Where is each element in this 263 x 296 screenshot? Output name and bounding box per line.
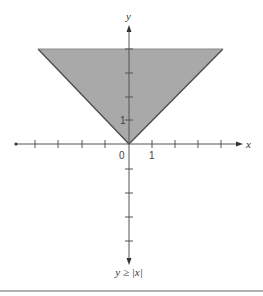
y-axis-label: y	[125, 10, 131, 22]
x-one-label: 1	[149, 150, 155, 161]
x-axis-label: x	[245, 138, 251, 150]
y-axis-up-arrow-icon	[127, 25, 132, 32]
y-one-label: 1	[120, 115, 126, 126]
y-axis-down-arrow-icon	[127, 258, 132, 265]
x-axis-left-dot	[14, 142, 17, 145]
origin-label: 0	[119, 150, 125, 161]
graph: y x 0 1 1 y ≥ |x|	[0, 0, 263, 296]
x-axis-arrow-icon	[236, 142, 243, 147]
caption: y ≥ |x|	[114, 266, 142, 278]
